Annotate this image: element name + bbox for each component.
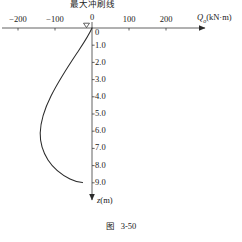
- y-tick-label-3: 3.0: [95, 75, 106, 84]
- x-tick-label-neg100: −100: [46, 15, 64, 24]
- caption-prefix: 图: [106, 221, 115, 231]
- scour-line-marker-icon: [84, 23, 90, 27]
- x-tick-label-neg200: −200: [9, 15, 27, 24]
- x-tick-label-100: 100: [123, 15, 136, 24]
- x-tick-label-200: 200: [160, 15, 173, 24]
- x-tick-label-zero: 0: [90, 13, 94, 22]
- y-tick-label-6: 6.0: [95, 126, 106, 135]
- moment-diagram-plot: [0, 0, 242, 242]
- y-tick-label-1: 1.0: [95, 41, 106, 50]
- y-tick-label-7: 7.0: [95, 143, 106, 152]
- y-tick-label-8: 8.0: [95, 161, 106, 170]
- y-tick-label-5: 5.0: [95, 109, 106, 118]
- figure-container: 最大冲刷线: [0, 0, 242, 242]
- caption-number: 3-50: [121, 221, 137, 231]
- y-axis-unit: (m): [100, 195, 112, 205]
- y-axis-title: z(m): [97, 196, 113, 205]
- x-axis-unit: (kN·m): [206, 12, 232, 22]
- figure-caption: 图3-50: [0, 222, 242, 231]
- bending-moment-curve: [40, 28, 92, 183]
- x-axis-title: Qo(kN·m): [197, 13, 232, 24]
- y-tick-label-0: 0: [95, 28, 99, 37]
- y-tick-label-2: 2.0: [95, 58, 106, 67]
- y-tick-label-9: 9.0: [95, 178, 106, 187]
- y-tick-label-4: 4.0: [95, 92, 106, 101]
- x-axis-group: [2, 28, 205, 31]
